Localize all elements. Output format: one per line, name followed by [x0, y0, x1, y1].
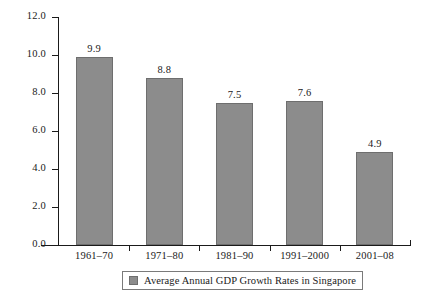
bar — [356, 152, 393, 245]
x-axis-category-label: 1991–2000 — [265, 250, 345, 262]
bar — [216, 103, 253, 246]
y-axis-tick — [52, 169, 58, 170]
bar — [146, 78, 183, 245]
y-axis-tick — [52, 17, 58, 18]
y-axis-tick — [52, 207, 58, 208]
y-axis-tick — [52, 131, 58, 132]
bar-value-label: 7.5 — [210, 89, 260, 100]
bar — [76, 57, 113, 245]
y-axis-tick-label: 0.0 — [0, 239, 46, 250]
x-axis-category-label: 1971–80 — [124, 250, 204, 262]
y-axis-tick-label: 8.0 — [0, 87, 46, 98]
bar-value-label: 8.8 — [139, 64, 189, 75]
x-axis-line — [41, 245, 410, 246]
y-axis-tick-label: 6.0 — [0, 125, 46, 136]
y-axis-tick — [52, 93, 58, 94]
x-axis-category-label: 1961–70 — [54, 250, 134, 262]
chart-legend: Average Annual GDP Growth Rates in Singa… — [122, 271, 363, 290]
x-axis-category-label: 2001–08 — [335, 250, 415, 262]
y-axis-tick-label: 10.0 — [0, 49, 46, 60]
bar — [286, 101, 323, 245]
y-axis-tick — [52, 55, 58, 56]
x-axis-category-label: 1981–90 — [195, 250, 275, 262]
gdp-growth-bar-chart: 0.02.04.06.08.010.012.0 9.98.87.57.64.9 … — [0, 0, 443, 298]
y-axis-tick-label: 12.0 — [0, 11, 46, 22]
bar-value-label: 9.9 — [69, 43, 119, 54]
y-axis-tick-label: 2.0 — [0, 201, 46, 212]
legend-swatch-icon — [129, 276, 138, 285]
x-axis-end-tick — [410, 240, 411, 246]
y-axis-tick — [52, 245, 58, 246]
bar-value-label: 7.6 — [280, 87, 330, 98]
y-axis-tick-label: 4.0 — [0, 163, 46, 174]
bar-value-label: 4.9 — [350, 138, 400, 149]
legend-label: Average Annual GDP Growth Rates in Singa… — [144, 275, 356, 286]
